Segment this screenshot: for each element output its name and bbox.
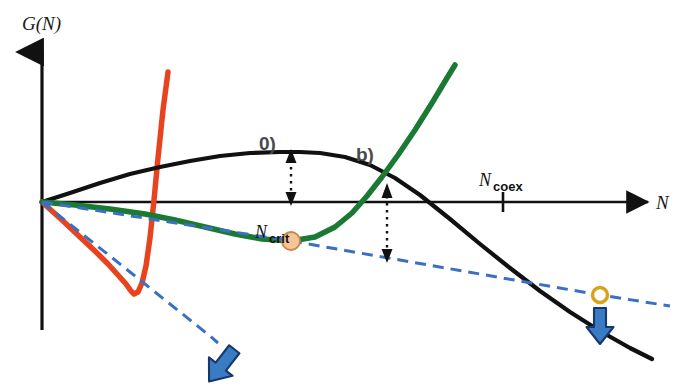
- marker-open-ring: [593, 288, 608, 303]
- curve-group: [42, 65, 670, 359]
- label-barrier-b: b): [356, 144, 374, 165]
- tick-label-n-coex-main: N: [478, 170, 492, 190]
- x-axis-label: N: [655, 192, 670, 213]
- tick-label-n-coex-sub: coex: [493, 179, 523, 194]
- curve-classical-black: [42, 152, 652, 359]
- y-axis-label: G(N): [22, 13, 61, 35]
- label-n-crit-main: N: [254, 222, 268, 242]
- measure-b-head-up: [382, 183, 393, 198]
- blue-arrow-group: [197, 308, 613, 390]
- blue-arrow-down-right: [197, 340, 246, 390]
- free-energy-diagram: G(N) N N coex N crit 0) b): [0, 0, 684, 390]
- label-barrier-a: 0): [259, 133, 276, 154]
- marker-group: [282, 232, 608, 303]
- figure-root: G(N) N N coex N crit 0) b): [0, 0, 684, 390]
- label-n-crit-sub: crit: [269, 231, 290, 246]
- measure-a-head-down: [286, 192, 297, 206]
